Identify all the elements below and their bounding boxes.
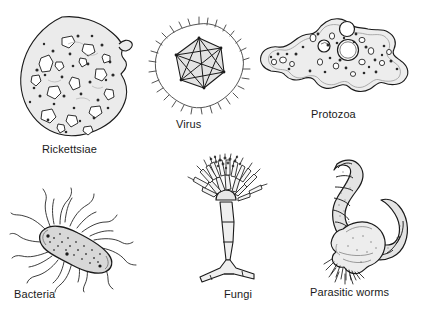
label-parasitic-worms: Parasitic worms <box>310 286 389 298</box>
bacteria-bacillus-icon <box>10 188 150 292</box>
fungi-illustration <box>180 156 276 292</box>
virus-icosahedron-icon <box>150 20 248 114</box>
bacteria-illustration <box>10 188 150 292</box>
virus-illustration <box>150 20 248 114</box>
label-bacteria: Bacteria <box>14 288 55 300</box>
protozoa-illustration <box>258 16 418 108</box>
label-fungi: Fungi <box>224 288 252 300</box>
label-rickettsiae: Rickettsiae <box>42 143 97 155</box>
pathogen-types-figure: Rickettsiae <box>0 0 429 316</box>
fungi-conidiophore-icon <box>180 156 276 292</box>
parasitic-worm-icon <box>293 158 415 286</box>
rickettsiae-illustration <box>18 14 140 140</box>
rickettsiae-cell-icon <box>18 14 140 140</box>
label-virus: Virus <box>176 118 201 130</box>
label-protozoa: Protozoa <box>311 108 356 120</box>
parasitic-worms-illustration <box>293 158 415 286</box>
protozoa-amoeba-icon <box>258 16 418 108</box>
